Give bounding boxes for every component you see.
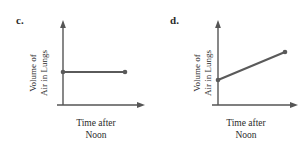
x-axis-label-line-2: Noon <box>56 129 136 141</box>
y-axis-label-line-1: Volume of <box>28 30 39 116</box>
y-axis-label-line-1: Volume of <box>192 30 203 116</box>
chart-panel-d: d. Volume of Air in Lungs Time after Noo… <box>154 0 308 156</box>
data-point-start <box>61 70 66 75</box>
x-axis-label-line-2: Noon <box>206 129 286 141</box>
y-axis-arrowhead-icon <box>60 20 66 28</box>
figure-canvas: { "figure": { "background": "#ffffff", "… <box>0 0 308 156</box>
x-axis-label: Time after Noon <box>56 117 136 141</box>
y-axis-arrowhead-icon <box>215 20 221 28</box>
y-axis-label-line-2: Air in Lungs <box>39 30 50 116</box>
x-axis-label-line-1: Time after <box>206 117 286 129</box>
y-axis-label-line-2: Air in Lungs <box>203 30 214 116</box>
data-point-start <box>216 78 221 83</box>
data-point-end <box>123 70 128 75</box>
x-axis-arrowhead-icon <box>290 102 298 108</box>
chart-panel-c: c. Volume of Air in Lungs Time after Noo… <box>0 0 154 156</box>
data-point-end <box>283 50 288 55</box>
y-axis-label: Volume of Air in Lungs <box>28 30 50 116</box>
x-axis-label-line-1: Time after <box>56 117 136 129</box>
x-axis-arrowhead-icon <box>137 102 145 108</box>
y-axis-label: Volume of Air in Lungs <box>192 30 214 116</box>
data-series-segment <box>218 52 285 80</box>
x-axis-label: Time after Noon <box>206 117 286 141</box>
